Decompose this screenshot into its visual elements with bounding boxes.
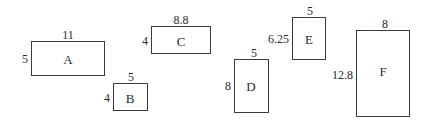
rectangle-b-height: 4 (104, 92, 110, 104)
rectangle-d-label: D (246, 80, 255, 93)
rectangle-b-width: 5 (128, 71, 134, 83)
rectangle-f-label: F (379, 65, 386, 78)
rectangle-e-height: 6.25 (268, 33, 289, 45)
rectangle-c-label: C (177, 35, 186, 48)
rectangle-c-width: 8.8 (174, 14, 189, 26)
rectangle-b-label: B (126, 92, 135, 105)
rectangle-d-height: 8 (225, 80, 231, 92)
rectangle-a-width: 11 (62, 29, 74, 41)
rectangle-f-height: 12.8 (332, 69, 353, 81)
rectangle-e-width: 5 (307, 5, 313, 17)
rectangle-a-label: A (63, 53, 72, 66)
rectangle-f-width: 8 (382, 18, 388, 30)
rectangle-d-width: 5 (251, 47, 257, 59)
rectangle-a-height: 5 (22, 53, 28, 65)
rectangle-c-height: 4 (142, 35, 148, 47)
rectangle-e-label: E (305, 33, 313, 46)
